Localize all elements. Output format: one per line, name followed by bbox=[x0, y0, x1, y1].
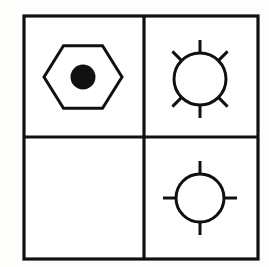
matrix-canvas bbox=[0, 0, 269, 267]
cell-bottom-left[interactable] bbox=[26, 139, 143, 258]
filled-dot-icon bbox=[71, 65, 96, 90]
cell-bottom-left-hitbox[interactable] bbox=[26, 139, 143, 258]
cell-top-right[interactable] bbox=[146, 18, 256, 136]
cell-bottom-right-hitbox[interactable] bbox=[146, 139, 256, 258]
cell-top-right-hitbox[interactable] bbox=[146, 18, 256, 136]
cell-bottom-right[interactable] bbox=[146, 139, 256, 258]
cell-top-left[interactable] bbox=[26, 18, 143, 136]
matrix-puzzle-figure bbox=[0, 0, 269, 267]
